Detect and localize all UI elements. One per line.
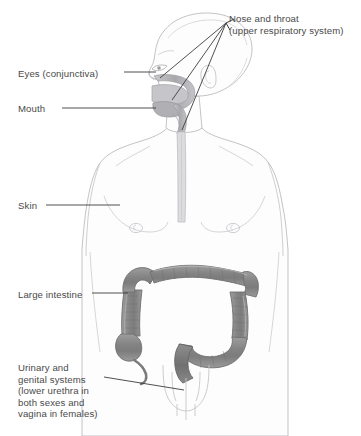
label-large-intestine-line1: Large intestine xyxy=(18,289,82,300)
label-urinary-genital: Urinary andgenital systems(lower urethra… xyxy=(18,362,98,420)
label-nose-and-throat: Nose and throat(upper respiratory system… xyxy=(229,13,344,36)
cecum xyxy=(116,334,142,361)
label-urogenital-line4: both sexes and xyxy=(18,397,84,408)
label-large-intestine: Large intestine xyxy=(18,289,82,301)
trachea-esophagus xyxy=(177,132,186,222)
label-urogenital-line3: (lower urethra in xyxy=(18,385,89,396)
label-nose-line1: Nose and throat xyxy=(229,13,299,24)
label-skin-line1: Skin xyxy=(18,200,37,211)
label-eyes: Eyes (conjunctiva) xyxy=(18,68,98,80)
label-skin: Skin xyxy=(18,200,37,212)
label-urogenital-line1: Urinary and xyxy=(18,362,69,373)
figure-canvas: Nose and throat(upper respiratory system… xyxy=(0,0,361,436)
label-mouth-line1: Mouth xyxy=(18,103,45,114)
label-nose-line2: (upper respiratory system) xyxy=(229,25,344,36)
label-eyes-line1: Eyes (conjunctiva) xyxy=(18,68,98,79)
label-urogenital-line2: genital systems xyxy=(18,374,86,385)
label-urogenital-line5: vagina in females) xyxy=(18,408,98,419)
label-mouth: Mouth xyxy=(18,103,45,115)
